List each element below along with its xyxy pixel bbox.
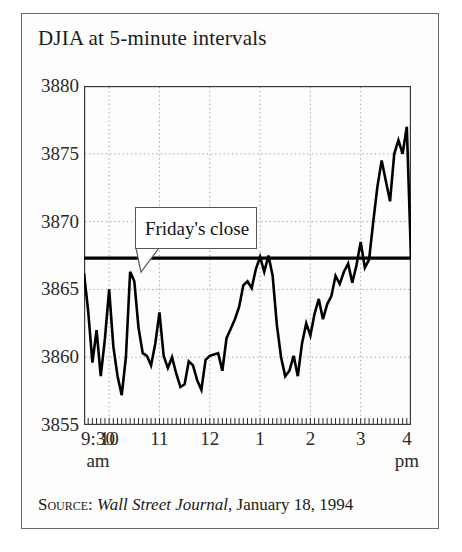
x-tick-label: 4 xyxy=(402,428,412,450)
x-tick-label: 1 xyxy=(255,428,265,450)
source-date: , January 18, 1994 xyxy=(228,495,353,514)
y-tick-label: 3865 xyxy=(41,278,79,300)
chart-plot-svg xyxy=(84,86,411,425)
x-tick-sublabel: pm xyxy=(395,450,419,472)
source-label: Source: xyxy=(38,495,93,514)
figure-panel: DJIA at 5-minute intervals 3880387538703… xyxy=(21,13,439,529)
x-tick-sublabel: am xyxy=(86,450,109,472)
callout-pointer-tail xyxy=(135,248,175,274)
source-publication: Wall Street Journal xyxy=(97,495,228,514)
x-tick-label: 3 xyxy=(356,428,366,450)
y-tick-label: 3860 xyxy=(41,346,79,368)
plot-frame xyxy=(85,87,411,425)
source-note: Source: Wall Street Journal, January 18,… xyxy=(38,495,353,515)
x-tick-label: 10 xyxy=(100,428,119,450)
x-tick-label: 11 xyxy=(150,428,168,450)
x-axis-tick-labels: 9:30am1011121234pm xyxy=(84,428,411,474)
x-tick-label: 12 xyxy=(200,428,219,450)
y-tick-label: 3870 xyxy=(41,211,79,233)
y-tick-label: 3855 xyxy=(41,414,79,436)
x-tick-label: 2 xyxy=(306,428,316,450)
djia-price-line xyxy=(84,127,411,395)
plot-area xyxy=(84,86,411,425)
friday-close-callout: Friday's close xyxy=(135,207,257,249)
y-tick-label: 3880 xyxy=(41,75,79,97)
y-axis-tick-labels: 388038753870386538603855 xyxy=(22,86,79,425)
minor-tick-marks xyxy=(88,418,407,424)
horizontal-gridlines xyxy=(85,154,410,357)
y-tick-label: 3875 xyxy=(41,143,79,165)
chart-title: DJIA at 5-minute intervals xyxy=(38,26,267,51)
callout-label: Friday's close xyxy=(136,208,258,250)
